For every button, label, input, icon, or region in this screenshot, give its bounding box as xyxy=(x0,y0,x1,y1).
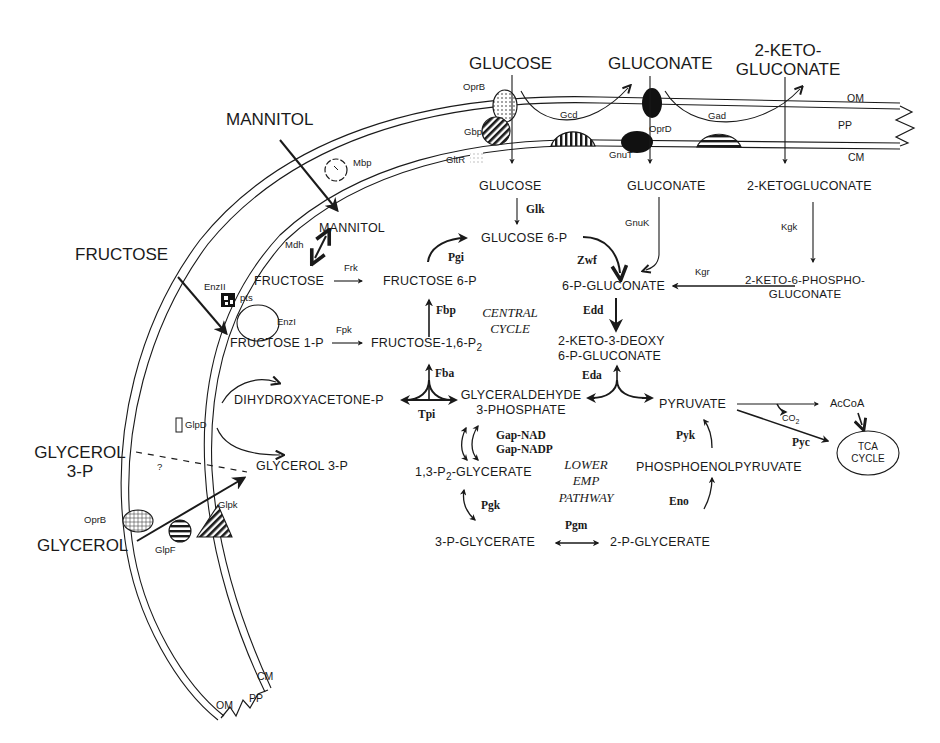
pyk-arrow xyxy=(704,420,712,448)
glpD-icon xyxy=(176,418,182,432)
metabolite-2-p-glycerate: 2-P-GLYCERATE xyxy=(610,536,710,549)
enzI-label: EnzI xyxy=(277,317,296,327)
enzyme-fbp: Fbp xyxy=(436,305,456,317)
pp-label-top: PP xyxy=(838,120,852,131)
oprD-label: OprD xyxy=(649,124,672,134)
pp-label-bottom: PP xyxy=(249,693,263,704)
glpK-label: Glpk xyxy=(218,500,238,510)
unknown-transporter-label: ? xyxy=(157,462,162,472)
external-glucose: GLUCOSE xyxy=(469,55,552,72)
enzII-pts-icon xyxy=(221,293,235,307)
tca-cycle-label: TCA CYCLE xyxy=(838,442,898,464)
oprD-porin-icon xyxy=(642,88,662,118)
gad-enzyme-dome-icon xyxy=(697,134,741,147)
periplasm-zigzag-top xyxy=(896,106,914,146)
metabolite-3-p-glycerate: 3-P-GLYCERATE xyxy=(435,536,535,549)
metabolic-pathway-diagram: GLUCOSE GLUCONATE 2-KETO- GLUCONATE MANN… xyxy=(0,0,940,743)
cm-label-top: CM xyxy=(848,152,864,163)
enzyme-gnuK: GnuK xyxy=(625,218,649,228)
cm-label-bottom: CM xyxy=(257,671,273,682)
metabolite-fructose: FRUCTOSE xyxy=(254,275,324,288)
mbp-binding-protein-icon xyxy=(325,159,347,181)
metabolite-glucose: GLUCOSE xyxy=(479,180,542,193)
glpD-label: GlpD xyxy=(185,420,207,430)
metabolite-2-keto-6-phosphogluconate: 2-KETO-6-PHOSPHO- GLUCONATE xyxy=(735,275,875,300)
enzII-label: EnzII xyxy=(204,282,226,292)
pgk-arrow xyxy=(463,490,475,520)
gbp-label: Gbp xyxy=(464,127,482,137)
mdh-reaction-arrow xyxy=(315,236,326,258)
lower-emp-pathway-annotation: LOWER EMP PATHWAY xyxy=(546,457,626,506)
metabolite-glyceraldehyde-3-phosphate: GLYCERALDEHYDE 3-PHOSPHATE xyxy=(456,389,586,416)
gltR-label: GltR xyxy=(446,155,465,165)
mbp-label: Mbp xyxy=(353,158,371,168)
metabolite-6-p-gluconate: 6-P-GLUCONATE xyxy=(562,280,665,293)
metabolite-fructose-1-6-p2: FRUCTOSE-1,6-P2 xyxy=(371,337,482,353)
enzyme-kgk: Kgk xyxy=(781,222,797,232)
oprB-bottom-label: OprB xyxy=(84,515,106,525)
external-mannitol: MANNITOL xyxy=(226,111,314,128)
metabolite-1-3-bisphosphoglycerate: 1,3-P2-GLYCERATE xyxy=(415,466,532,482)
enzyme-pyk: Pyk xyxy=(676,430,695,442)
eda-split-arrow xyxy=(592,380,645,398)
pts-label: pts xyxy=(240,293,253,303)
gcd-enzyme-dome-icon xyxy=(551,132,595,146)
enzyme-pgk: Pgk xyxy=(481,500,500,512)
glpF-label: GlpF xyxy=(155,545,176,555)
metabolite-co2: CO2 xyxy=(782,414,799,425)
enzyme-glk: Glk xyxy=(526,204,545,216)
metabolite-phosphoenolpyruvate: PHOSPHOENOLPYRUVATE xyxy=(636,461,802,474)
metabolite-pyruvate: PYRUVATE xyxy=(659,398,726,411)
external-glycerol-3-p: GLYCEROL 3-P xyxy=(28,444,132,480)
om-label-bottom: OM xyxy=(216,700,233,711)
enzyme-gap-nad: Gap-NAD xyxy=(496,430,546,442)
enzyme-edd: Edd xyxy=(583,305,603,317)
enzyme-fba: Fba xyxy=(435,368,454,380)
diagram-graphics xyxy=(0,0,940,743)
oprB-top-label: OprB xyxy=(463,82,485,92)
enzyme-tpi: Tpi xyxy=(418,409,435,421)
enzyme-fpk: Fpk xyxy=(336,325,352,335)
external-fructose: FRUCTOSE xyxy=(75,246,168,263)
gnuT-label: GnuT xyxy=(609,150,633,160)
gnuK-arrow xyxy=(646,197,659,270)
enzyme-gap-nadp: Gap-NADP xyxy=(496,444,553,456)
metabolite-fructose-1-p: FRUCTOSE 1-P xyxy=(230,337,324,350)
enzyme-pyc: Pyc xyxy=(792,437,810,449)
metabolite-fructose-6-p: FRUCTOSE 6-P xyxy=(383,275,477,288)
oprB-bottom-porin-icon xyxy=(123,510,153,532)
enzyme-frk: Frk xyxy=(344,263,358,273)
enzyme-eda: Eda xyxy=(582,370,602,382)
metabolite-acetyl-coa: AcCoA xyxy=(830,398,864,409)
metabolite-glycerol-3-p: GLYCEROL 3-P xyxy=(256,460,348,473)
external-gluconate: GLUCONATE xyxy=(608,55,713,72)
external-2-ketogluconate: 2-KETO- GLUCONATE xyxy=(728,42,848,78)
gcd-label: Gcd xyxy=(560,110,577,120)
metabolite-kdpg: 2-KETO-3-DEOXY 6-P-GLUCONATE xyxy=(558,335,665,362)
metabolite-glucose-6-p: GLUCOSE 6-P xyxy=(481,232,567,245)
metabolite-2-ketogluconate: 2-KETOGLUCONATE xyxy=(747,180,872,193)
glpD-arrow-g3p xyxy=(217,428,280,455)
external-glycerol: GLYCEROL xyxy=(37,537,128,554)
metabolite-mannitol: MANNITOL xyxy=(319,222,385,235)
enzyme-mdh: Mdh xyxy=(285,240,303,250)
om-label-top: OM xyxy=(847,93,864,104)
central-cycle-annotation: CENTRAL CYCLE xyxy=(470,305,550,338)
enzyme-pgm: Pgm xyxy=(565,520,587,532)
glycerol3p-uptake-dashed xyxy=(136,452,247,472)
glpF-channel-icon xyxy=(169,520,191,542)
enzyme-zwf: Zwf xyxy=(577,255,597,267)
enzyme-kgr: Kgr xyxy=(695,267,710,277)
gltR-regulator-icon xyxy=(470,151,483,164)
gbp-binding-protein-icon xyxy=(482,117,510,145)
enzyme-pgi: Pgi xyxy=(448,252,464,264)
enzyme-eno: Eno xyxy=(669,496,689,508)
metabolite-dihydroxyacetone-p: DIHYDROXYACETONE-P xyxy=(234,394,384,407)
metabolite-gluconate: GLUCONATE xyxy=(627,180,706,193)
eno-arrow xyxy=(704,478,712,509)
gad-label: Gad xyxy=(708,111,726,121)
